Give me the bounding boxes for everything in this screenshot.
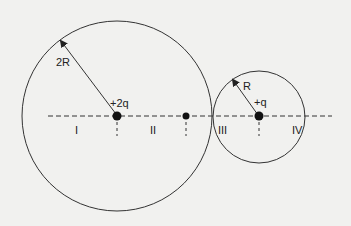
diagram-svg	[0, 0, 351, 226]
radius-arrow-2r	[61, 41, 116, 114]
region-label-1: I	[75, 125, 78, 136]
radius-label-r: R	[243, 81, 251, 92]
charge-label-2q: +2q	[110, 98, 129, 109]
charge-dot-q	[255, 112, 264, 121]
region-label-2: II	[150, 125, 156, 136]
field-diagram: 2R R +2q +q I II III IV	[0, 0, 351, 226]
charge-dot-2q	[113, 112, 122, 121]
point-dot-middle	[183, 113, 190, 120]
radius-label-2r: 2R	[56, 57, 70, 68]
region-label-4: IV	[292, 125, 302, 136]
charge-label-q: +q	[254, 97, 267, 108]
region-label-3: III	[218, 125, 227, 136]
